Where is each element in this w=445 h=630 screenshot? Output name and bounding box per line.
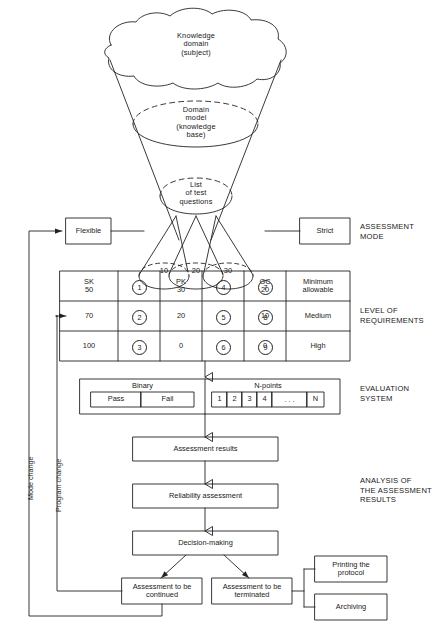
evaluation-system-outline bbox=[80, 379, 340, 414]
knowledge-domain-cloud bbox=[105, 8, 287, 89]
assessment-results-outline bbox=[133, 437, 278, 461]
assessment-terminated-outline bbox=[212, 578, 292, 604]
requirements-table-outline bbox=[60, 271, 350, 361]
assessment-continued-outline bbox=[122, 578, 202, 604]
flexible-box-outline bbox=[66, 218, 111, 244]
printing-protocol-outline bbox=[315, 556, 387, 582]
archiving-outline bbox=[315, 594, 387, 620]
decision-making-outline bbox=[133, 531, 278, 555]
strict-box-outline bbox=[300, 218, 350, 244]
reliability-assessment-outline bbox=[133, 484, 278, 508]
diagram-vector-layer bbox=[0, 0, 445, 630]
diagram-canvas: Knowledge domain (subject) Domain model … bbox=[0, 0, 445, 630]
